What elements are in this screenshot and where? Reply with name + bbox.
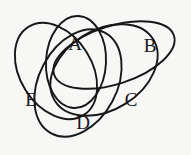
set-label-b: B	[144, 35, 157, 56]
set-label-a: A	[68, 33, 82, 54]
set-label-e: E	[25, 89, 37, 110]
set-label-d: D	[76, 112, 90, 133]
set-ellipse-a	[44, 14, 109, 109]
set-label-c: C	[125, 89, 138, 110]
set-ellipse-b	[45, 8, 183, 102]
venn-diagram-canvas: A B C D E	[0, 0, 191, 155]
venn-diagram: A B C D E	[0, 0, 191, 155]
